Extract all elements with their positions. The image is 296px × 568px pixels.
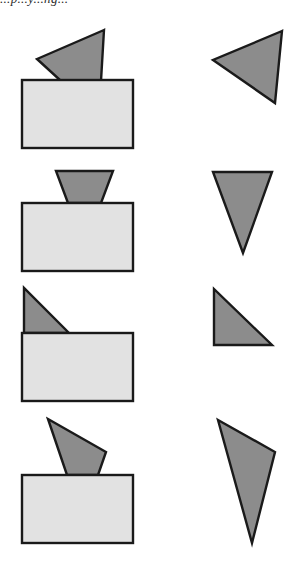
row-4-isolated-triangle bbox=[218, 420, 275, 543]
row-2-group bbox=[22, 171, 272, 271]
figure-stage: ...p...y...ng... bbox=[0, 0, 296, 568]
caption-text-fragment: ...p...y...ng... bbox=[0, 0, 296, 7]
row-3-rectangle-occluder bbox=[22, 333, 133, 401]
row-3-group bbox=[22, 288, 272, 401]
row-1-occluded-triangle bbox=[37, 30, 104, 81]
row-1-isolated-triangle bbox=[213, 31, 282, 103]
row-4-occluded-triangle bbox=[48, 419, 106, 475]
row-1-rectangle-occluder bbox=[22, 80, 133, 148]
row-3-isolated-triangle bbox=[214, 289, 272, 345]
row-3-occluded-triangle bbox=[24, 288, 69, 333]
row-4-rectangle-occluder bbox=[22, 475, 133, 543]
row-2-isolated-triangle bbox=[213, 172, 272, 253]
row-1-group bbox=[22, 30, 282, 148]
row-2-rectangle-occluder bbox=[22, 203, 133, 271]
occlusion-figure bbox=[0, 0, 296, 568]
row-2-occluded-triangle bbox=[56, 171, 113, 203]
row-4-group bbox=[22, 419, 275, 543]
